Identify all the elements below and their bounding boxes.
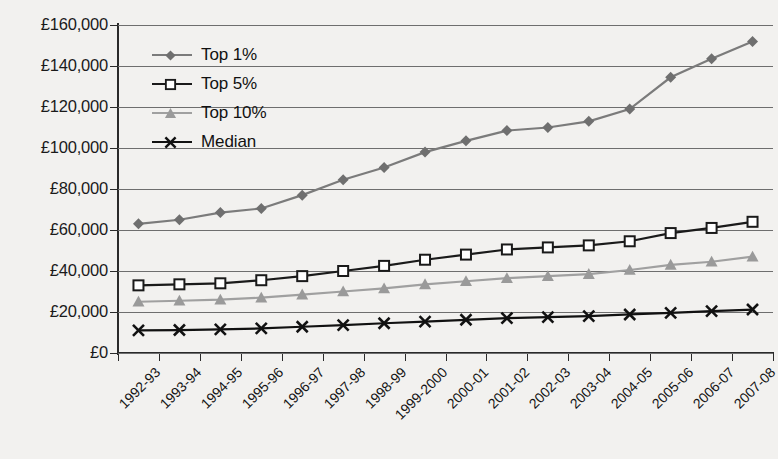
x-axis-tick-label: 2007-08 [730, 364, 778, 412]
legend-marker-square-open-icon [150, 74, 194, 94]
data-point-square-open [584, 240, 594, 250]
data-point-diamond [338, 174, 349, 185]
x-axis-tick [691, 354, 692, 361]
x-axis-tick-label: 2005-06 [648, 364, 696, 412]
series-2 [133, 217, 757, 291]
data-point-square-open [215, 278, 225, 288]
data-point-square-open [133, 280, 143, 290]
y-axis-tick [110, 107, 118, 108]
x-axis-tick [446, 354, 447, 361]
x-axis-tick [282, 354, 283, 361]
x-axis-tick [159, 354, 160, 361]
data-point-diamond [542, 122, 553, 133]
data-point-diamond [256, 203, 267, 214]
x-axis-tick [486, 354, 487, 361]
legend-item-top-10: Top 10% [150, 98, 330, 127]
x-axis-tick-label: 2006-07 [689, 364, 737, 412]
legend-marker-diamond-icon [150, 45, 194, 65]
data-point-diamond [215, 207, 226, 218]
x-axis-tick-label: 1995-96 [239, 364, 287, 412]
data-point-x [165, 137, 175, 147]
legend-label: Median [194, 132, 256, 152]
legend-item-top-1: Top 1% [150, 40, 330, 69]
data-point-diamond [420, 147, 431, 158]
x-axis-tick-label: 2002-03 [526, 364, 574, 412]
y-axis-tick-label: £20,000 [4, 302, 108, 321]
y-axis-tick [110, 353, 118, 354]
data-point-triangle [747, 251, 759, 262]
data-point-square-open [461, 250, 471, 260]
series-line [138, 257, 752, 302]
series-line [138, 310, 752, 331]
legend-marker-x-icon [150, 132, 194, 152]
y-axis-tick [110, 312, 118, 313]
x-axis-tick [650, 354, 651, 361]
data-point-square-open [707, 223, 717, 233]
y-axis-tick-label: £100,000 [4, 138, 108, 157]
x-axis-tick-label: 2001-02 [485, 364, 533, 412]
x-axis-tick [241, 354, 242, 361]
data-point-square-open [625, 236, 635, 246]
data-point-square-open [174, 279, 184, 289]
y-axis-tick [110, 148, 118, 149]
x-axis-tick-label: 2000-01 [444, 364, 492, 412]
y-axis-tick-label: £40,000 [4, 261, 108, 280]
series-4 [133, 304, 758, 336]
x-axis-tick-label: 1993-94 [157, 364, 205, 412]
data-point-square-open [543, 242, 553, 252]
data-point-diamond [165, 50, 175, 60]
y-axis-tick-label: £80,000 [4, 179, 108, 198]
legend-label: Top 10% [194, 103, 266, 123]
chart-page: £0£20,000£40,000£60,000£80,000£100,000£1… [0, 0, 778, 459]
legend-marker-triangle-icon [150, 103, 194, 123]
data-point-diamond [460, 135, 471, 146]
data-point-square-open [338, 266, 348, 276]
data-point-square-open [748, 217, 758, 227]
data-point-diamond [133, 218, 144, 229]
data-point-square-open [297, 271, 307, 281]
x-axis-tick [732, 354, 733, 361]
data-point-square-open [256, 275, 266, 285]
data-point-diamond [501, 125, 512, 136]
x-axis-tick-label: 1996-97 [280, 364, 328, 412]
gridline [118, 353, 773, 354]
y-axis-tick [110, 230, 118, 231]
chart-legend: Top 1%Top 5%Top 10%Median [150, 40, 330, 156]
data-point-diamond [174, 214, 185, 225]
legend-label: Top 1% [194, 45, 257, 65]
data-point-triangle [165, 107, 176, 117]
x-axis-tick [364, 354, 365, 361]
series-3 [132, 251, 758, 307]
x-axis-tick [527, 354, 528, 361]
x-axis-tick [568, 354, 569, 361]
y-axis-tick [110, 271, 118, 272]
series-line [138, 222, 752, 286]
data-point-square-open [420, 255, 430, 265]
x-axis-tick-label: 2003-04 [566, 364, 614, 412]
data-point-square-open [379, 261, 389, 271]
x-axis-tick-label: 1994-95 [198, 364, 246, 412]
y-axis-tick-label: £0 [4, 343, 108, 362]
x-axis-tick-label: 1997-98 [321, 364, 369, 412]
x-axis-tick [118, 354, 119, 361]
x-axis-tick-label: 1992-93 [116, 364, 164, 412]
x-axis-tick [609, 354, 610, 361]
legend-item-top-5: Top 5% [150, 69, 330, 98]
legend-item-median: Median [150, 127, 330, 156]
data-point-diamond [297, 190, 308, 201]
x-axis-tick-label: 2004-05 [607, 364, 655, 412]
x-axis-tick [323, 354, 324, 361]
data-point-diamond [379, 162, 390, 173]
y-axis-tick [110, 189, 118, 190]
x-axis-tick [405, 354, 406, 361]
legend-label: Top 5% [194, 74, 257, 94]
data-point-diamond [583, 116, 594, 127]
x-axis-tick [200, 354, 201, 361]
y-axis-tick-label: £60,000 [4, 220, 108, 239]
data-point-square-open [666, 228, 676, 238]
data-point-square-open [502, 244, 512, 254]
x-axis-tick [773, 354, 774, 361]
x-axis-labels: 1992-931993-941994-951995-961996-971997-… [0, 0, 778, 106]
data-point-square-open [166, 79, 175, 88]
